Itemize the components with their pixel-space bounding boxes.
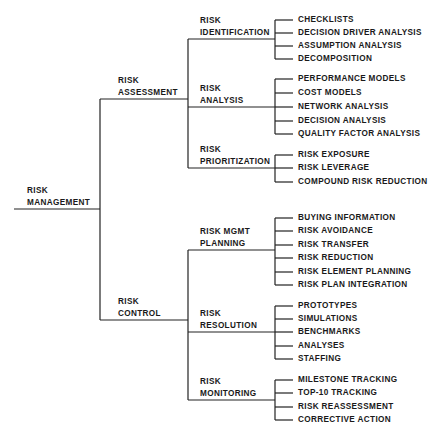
node-label-line2: ANALYSIS xyxy=(200,95,243,107)
leaf-item: RISK AVOIDANCE xyxy=(298,226,373,236)
node-label-line1: RISK xyxy=(27,185,90,197)
node-label-line2: PLANNING xyxy=(200,238,250,250)
node-risk-prioritization: RISK PRIORITIZATION xyxy=(200,144,270,167)
node-label-line1: RISK xyxy=(200,376,257,388)
leaf-item: COMPOUND RISK REDUCTION xyxy=(298,177,428,187)
leaf-item: TOP-10 TRACKING xyxy=(298,388,377,398)
leaf-item: CORRECTIVE ACTION xyxy=(298,415,391,425)
node-label-line2: ASSESSMENT xyxy=(118,87,178,99)
node-label-line1: RISK xyxy=(118,75,178,87)
node-risk-assessment: RISK ASSESSMENT xyxy=(118,75,178,98)
leaf-item: DECOMPOSITION xyxy=(298,54,372,64)
node-label-line1: RISK MGMT xyxy=(200,226,250,238)
leaf-item: PROTOTYPES xyxy=(298,301,357,311)
node-risk-identification: RISK IDENTIFICATION xyxy=(200,15,270,38)
leaf-item: RISK LEVERAGE xyxy=(298,163,369,173)
node-risk-control: RISK CONTROL xyxy=(118,296,161,319)
leaf-item: RISK TRANSFER xyxy=(298,240,369,250)
leaf-item: DECISION ANALYSIS xyxy=(298,116,386,126)
leaf-item: MILESTONE TRACKING xyxy=(298,375,397,385)
node-label-line2: MONITORING xyxy=(200,388,257,400)
leaf-item: RISK REDUCTION xyxy=(298,253,373,263)
leaf-item: RISK REASSESSMENT xyxy=(298,402,394,412)
leaf-item: ANALYSES xyxy=(298,341,345,351)
node-label-line2: RESOLUTION xyxy=(200,320,257,332)
leaf-item: CHECKLISTS xyxy=(298,15,354,25)
node-label-line1: RISK xyxy=(200,308,257,320)
node-label-line2: IDENTIFICATION xyxy=(200,27,270,39)
leaf-item: BENCHMARKS xyxy=(298,327,361,337)
node-risk-mgmt-planning: RISK MGMT PLANNING xyxy=(200,226,250,249)
leaf-item: SIMULATIONS xyxy=(298,314,358,324)
node-risk-management: RISK MANAGEMENT xyxy=(27,185,90,208)
leaf-item: COST MODELS xyxy=(298,88,362,98)
node-label-line1: RISK xyxy=(200,144,270,156)
leaf-item: PERFORMANCE MODELS xyxy=(298,74,406,84)
node-risk-analysis: RISK ANALYSIS xyxy=(200,83,243,106)
node-label-line2: PRIORITIZATION xyxy=(200,156,270,168)
leaf-item: RISK EXPOSURE xyxy=(298,150,370,160)
leaf-item: QUALITY FACTOR ANALYSIS xyxy=(298,129,420,139)
node-risk-monitoring: RISK MONITORING xyxy=(200,376,257,399)
leaf-item: RISK ELEMENT PLANNING xyxy=(298,267,411,277)
node-label-line1: RISK xyxy=(200,15,270,27)
node-risk-resolution: RISK RESOLUTION xyxy=(200,308,257,331)
node-label-line2: CONTROL xyxy=(118,308,161,320)
node-label-line1: RISK xyxy=(200,83,243,95)
leaf-item: STAFFING xyxy=(298,354,341,364)
node-label-line2: MANAGEMENT xyxy=(27,197,90,209)
leaf-item: DECISION DRIVER ANALYSIS xyxy=(298,28,422,38)
leaf-item: ASSUMPTION ANALYSIS xyxy=(298,41,402,51)
node-label-line1: RISK xyxy=(118,296,161,308)
leaf-item: NETWORK ANALYSIS xyxy=(298,102,389,112)
leaf-item: BUYING INFORMATION xyxy=(298,213,396,223)
leaf-item: RISK PLAN INTEGRATION xyxy=(298,280,408,290)
